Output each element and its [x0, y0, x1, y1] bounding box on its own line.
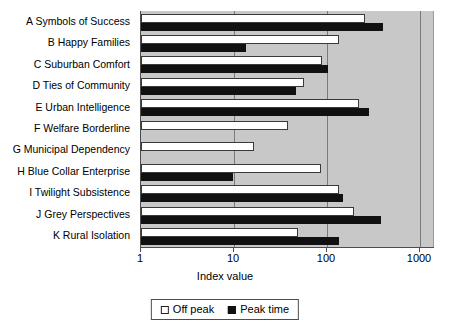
legend-item-off-peak: Off peak	[161, 303, 214, 316]
bar-peak-time	[141, 173, 233, 181]
bar-peak-time	[141, 44, 246, 52]
category-label: F Welfare Borderline	[34, 123, 130, 134]
bar-off-peak	[141, 164, 321, 173]
bar-peak-time	[141, 108, 369, 116]
legend-label-peak-time: Peak time	[240, 303, 289, 316]
bar-peak-time	[141, 216, 381, 224]
bar-peak-time	[141, 23, 383, 31]
category-label: C Suburban Comfort	[34, 59, 130, 70]
legend-label-off-peak: Off peak	[173, 303, 214, 316]
bar-off-peak	[141, 99, 359, 108]
chart-legend: Off peak Peak time	[151, 299, 299, 320]
bar-off-peak	[141, 78, 304, 87]
category-label: B Happy Families	[48, 37, 130, 48]
bar-off-peak	[141, 56, 322, 65]
category-label: J Grey Perspectives	[36, 209, 130, 220]
bar-peak-time	[141, 65, 328, 73]
bar-peak-time	[141, 194, 343, 202]
bar-peak-time	[141, 87, 296, 95]
black-square-icon	[228, 306, 236, 314]
category-label: E Urban Intelligence	[35, 102, 130, 113]
bar-off-peak	[141, 35, 339, 44]
gridline	[420, 11, 421, 247]
category-label: H Blue Collar Enterprise	[17, 166, 130, 177]
category-label: K Rural Isolation	[53, 230, 130, 241]
x-axis-tick-label: 1000	[407, 252, 431, 265]
plot-right-edge	[433, 11, 434, 247]
bar-off-peak	[141, 121, 288, 130]
bar-off-peak	[141, 207, 354, 216]
x-axis-tick-label: 100	[317, 252, 335, 265]
category-label: G Municipal Dependency	[13, 144, 130, 155]
bar-off-peak	[141, 185, 339, 194]
bar-off-peak	[141, 228, 298, 237]
plot-area	[140, 11, 434, 248]
white-square-icon	[161, 306, 169, 314]
legend-item-peak-time: Peak time	[228, 303, 289, 316]
x-axis-title: Index value	[0, 270, 450, 282]
category-label: A Symbols of Success	[26, 16, 130, 27]
bar-chart: A Symbols of SuccessB Happy FamiliesC Su…	[0, 0, 450, 329]
category-label: D Ties of Community	[33, 80, 130, 91]
category-label: I Twilight Subsistence	[29, 187, 130, 198]
bar-off-peak	[141, 142, 254, 151]
x-axis-tick-label: 10	[227, 252, 239, 265]
x-axis-tick-label: 1	[137, 252, 143, 265]
category-axis-labels: A Symbols of SuccessB Happy FamiliesC Su…	[0, 11, 136, 247]
bar-off-peak	[141, 14, 365, 23]
bar-peak-time	[141, 237, 339, 245]
